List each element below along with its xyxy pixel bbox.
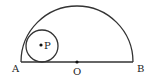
- label-o: O: [73, 66, 81, 77]
- label-a: A: [11, 63, 20, 74]
- semicircle-arc: [21, 6, 133, 62]
- point-p-dot: [39, 43, 42, 46]
- label-b: B: [137, 63, 144, 74]
- label-p: P: [44, 40, 51, 51]
- point-o-dot: [75, 60, 78, 63]
- geometry-diagram: P A O B: [0, 0, 154, 84]
